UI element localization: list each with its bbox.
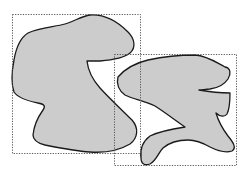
- diagram-canvas: [0, 0, 245, 172]
- diagram-svg: [0, 0, 245, 172]
- right-blob-shape: [117, 55, 234, 165]
